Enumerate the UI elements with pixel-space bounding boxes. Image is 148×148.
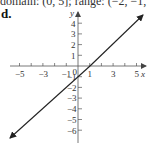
x-tick-label: −3 — [39, 69, 49, 79]
x-tick-label: 3 — [111, 69, 116, 79]
x-axis-label: x — [140, 69, 145, 79]
y-tick-label: −6 — [67, 126, 77, 136]
y-tick-label: 4 — [71, 19, 76, 29]
x-tick-label: −5 — [15, 69, 25, 79]
y-tick-label: −2 — [67, 83, 77, 93]
y-tick-label: −1 — [67, 72, 77, 82]
y-tick-label: 3 — [71, 29, 76, 39]
y-tick-label: −3 — [67, 93, 77, 103]
x-tick-label: 5 — [135, 69, 140, 79]
chart-plot: −5 −3 −1 0 1 3 5 x 4 3 2 1 −1 −2 −3 −4 −… — [0, 0, 148, 148]
y-tick-label: 2 — [71, 40, 76, 50]
y-tick-label: 1 — [71, 51, 76, 61]
x-tick-label: 1 — [88, 69, 93, 79]
y-tick-label: −5 — [67, 115, 77, 125]
y-axis-label: y — [69, 8, 74, 18]
function-line — [90, 15, 143, 66]
y-tick-label: −4 — [67, 104, 77, 114]
